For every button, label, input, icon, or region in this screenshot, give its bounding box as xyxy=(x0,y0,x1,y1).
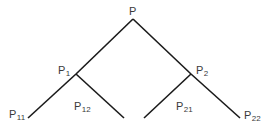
node-label-p21-text: P xyxy=(176,100,183,112)
node-label-p2-text: P xyxy=(196,64,203,76)
node-label-p11: P11 xyxy=(9,109,25,120)
node-label-p21-subscript: 21 xyxy=(184,105,193,114)
tree-edges xyxy=(0,0,270,131)
node-label-root-text: P xyxy=(129,5,136,17)
node-label-p22-text: P xyxy=(244,109,251,121)
node-label-p21: P21 xyxy=(176,101,193,112)
node-label-p1-subscript: 1 xyxy=(66,69,70,78)
node-label-p2: P2 xyxy=(196,65,208,76)
node-label-p12-text: P xyxy=(74,100,81,112)
node-label-p12: P12 xyxy=(74,101,91,112)
edge-p2-p22 xyxy=(191,74,240,118)
node-label-p1-text: P xyxy=(58,64,65,76)
edge-root-p2 xyxy=(133,19,191,74)
node-label-p12-subscript: 12 xyxy=(82,105,91,114)
edge-p1-p11 xyxy=(28,74,76,118)
node-label-root: P xyxy=(129,6,136,17)
node-label-p11-subscript: 11 xyxy=(17,113,25,122)
node-label-p2-subscript: 2 xyxy=(204,69,208,78)
edge-root-p1 xyxy=(76,19,133,74)
node-label-p11-text: P xyxy=(9,108,16,120)
node-label-p22: P22 xyxy=(244,110,261,121)
node-label-p1: P1 xyxy=(58,65,70,76)
node-label-p22-subscript: 22 xyxy=(252,114,261,123)
